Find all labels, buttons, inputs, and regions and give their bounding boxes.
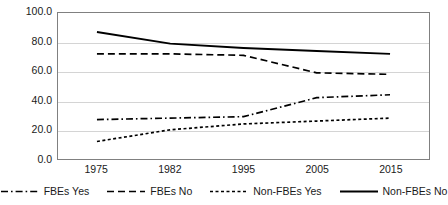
x-tick-label: 2015 (379, 163, 402, 175)
y-tick-label: 40.0 (0, 95, 52, 106)
legend-swatch-dotted-icon (210, 187, 248, 196)
series-line (97, 95, 390, 120)
y-tick-label: 20.0 (0, 124, 52, 135)
legend-swatch-dashed-icon (107, 187, 145, 196)
legend-swatch-solid-icon (340, 187, 378, 196)
legend-item[interactable]: Non-FBEs Yes (210, 185, 321, 197)
y-axis: 0.020.040.060.080.0100.0 (0, 0, 52, 175)
legend-swatch-dash-dot-icon (1, 187, 39, 196)
x-tick-label: 2005 (305, 163, 328, 175)
series-layer (58, 13, 429, 159)
legend-item[interactable]: Non-FBEs No (340, 185, 448, 197)
x-tick-label: 1995 (232, 163, 255, 175)
legend-item[interactable]: FBEs Yes (1, 185, 90, 197)
series-line (97, 54, 390, 74)
x-tick-label: 1982 (158, 163, 181, 175)
legend-item[interactable]: FBEs No (107, 185, 192, 197)
y-tick-label: 0.0 (0, 154, 52, 165)
legend-label: Non-FBEs Yes (253, 185, 321, 197)
legend-label: Non-FBEs No (383, 185, 448, 197)
x-tick-label: 1975 (84, 163, 107, 175)
series-line (97, 118, 390, 141)
chart-legend: FBEs YesFBEs NoNon-FBEs YesNon-FBEs No (0, 182, 448, 200)
series-line (97, 32, 390, 54)
legend-label: FBEs No (150, 185, 192, 197)
y-tick-label: 100.0 (0, 6, 52, 17)
y-tick-label: 80.0 (0, 36, 52, 47)
plot-area (57, 12, 430, 160)
legend-label: FBEs Yes (44, 185, 90, 197)
x-axis: 19751982199520052015 (57, 163, 430, 179)
y-tick-label: 60.0 (0, 65, 52, 76)
line-chart: 0.020.040.060.080.0100.0 197519821995200… (0, 0, 448, 205)
